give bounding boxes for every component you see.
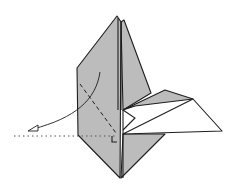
white-inner-edge <box>123 110 135 130</box>
lower-right-flap <box>121 134 165 178</box>
fold-arrowhead <box>28 125 38 131</box>
left-panel <box>77 16 121 178</box>
origami-diagram <box>0 0 236 193</box>
right-tall-flap <box>121 20 151 110</box>
